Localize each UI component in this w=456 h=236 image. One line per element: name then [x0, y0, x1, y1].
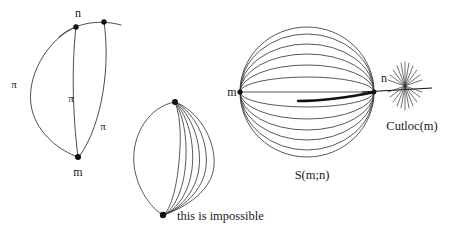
- impossible-arc-4: [163, 102, 199, 215]
- pole-n-dot: [372, 90, 377, 95]
- impossible-bottom-vertex-dot: [160, 212, 166, 218]
- sphere-meridians: [240, 27, 374, 157]
- geodesic-bigon-vertices: [73, 19, 106, 160]
- left-panel-label-pi-2: π: [68, 93, 74, 104]
- highlighted-geodesic: [298, 92, 375, 101]
- sphere-name-label: S(m;n): [295, 169, 330, 182]
- vertex-n-dot: [73, 24, 78, 29]
- cutlocus-starburst: [388, 62, 422, 110]
- cutloc-label: Cutloc(m): [386, 120, 437, 133]
- geodesic-bigon-panel: [30, 22, 121, 157]
- sphere-label-n: n: [381, 72, 387, 84]
- impossible-top-vertex-dot: [172, 99, 178, 105]
- sphere-cutlocus-panel: [237, 27, 432, 157]
- sphere-label-m: m: [227, 86, 236, 98]
- top-cap-arc: [59, 22, 121, 37]
- left-panel-label-pi-3: π: [100, 121, 106, 132]
- left-panel-label-pi-1: π: [11, 79, 17, 90]
- vertex-m-dot: [75, 154, 81, 160]
- left-panel-label-m: m: [73, 166, 82, 178]
- left-panel-label-n: n: [75, 7, 81, 19]
- impossible-arc-1: [134, 102, 175, 215]
- impossible-panel-vertices: [160, 99, 178, 218]
- impossible-geodesic-panel: [134, 102, 214, 215]
- vertex-unlabeled-dot: [101, 19, 106, 24]
- impossible-caption: this is impossible: [177, 210, 264, 223]
- pole-m-dot: [237, 89, 242, 94]
- geodesic-arc-right: [79, 22, 106, 157]
